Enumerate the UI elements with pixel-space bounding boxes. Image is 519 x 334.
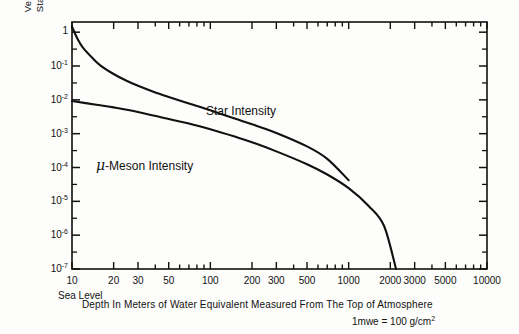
mu-symbol: μ (96, 157, 105, 173)
mwe-conversion-note: 1mwe = 100 g/cm2 (352, 315, 435, 327)
figure-container: Vertical Intensity (Particles/cm2 sec st… (0, 0, 519, 334)
axis-ticks (72, 22, 487, 269)
y-tick-label: 10-3 (38, 127, 68, 139)
mu-meson-intensity-curve (72, 101, 396, 269)
y-tick-label: 10-4 (38, 161, 68, 173)
axes-frame (72, 22, 487, 269)
y-tick-label: 10-7 (38, 262, 68, 274)
star-intensity-label: Star Intensity (206, 104, 276, 118)
y-tick-label: 1 (38, 25, 68, 36)
x-axis-title: Depth In Meters of Water Equivalent Meas… (82, 299, 433, 310)
y-tick-label: 10-6 (38, 228, 68, 240)
y-tick-label: 10-2 (38, 93, 68, 105)
y-tick-label: 10-1 (38, 59, 68, 71)
data-curves (72, 27, 396, 269)
mu-meson-label-text: -Meson Intensity (105, 159, 193, 173)
x-tick-label: 10000 (461, 275, 513, 286)
mu-meson-intensity-label: μ-Meson Intensity (96, 157, 193, 173)
plot-frame (72, 22, 487, 269)
y-tick-label: 10-5 (38, 194, 68, 206)
